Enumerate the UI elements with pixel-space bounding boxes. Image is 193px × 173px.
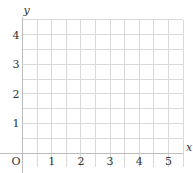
y-tick-label: 2	[13, 88, 20, 101]
y-tick-label: 4	[13, 29, 20, 42]
tick-labels: O x y 1 2 3 4 5 1 2 3 4	[11, 4, 193, 168]
y-tick-label: 3	[13, 58, 20, 71]
y-tick-label: 1	[13, 117, 20, 130]
x-tick-label: 4	[136, 155, 143, 168]
grid-lines	[23, 20, 184, 167]
y-axis-label: y	[23, 4, 31, 17]
coordinate-grid-chart: O x y 1 2 3 4 5 1 2 3 4	[0, 0, 193, 173]
axes	[0, 17, 183, 173]
x-tick-label: 5	[165, 155, 172, 168]
x-tick-label: 3	[107, 155, 114, 168]
origin-label: O	[11, 155, 20, 168]
x-tick-label: 1	[48, 155, 55, 168]
x-tick-label: 2	[77, 155, 84, 168]
chart-svg: O x y 1 2 3 4 5 1 2 3 4	[0, 0, 193, 173]
x-axis-label: x	[186, 141, 193, 154]
